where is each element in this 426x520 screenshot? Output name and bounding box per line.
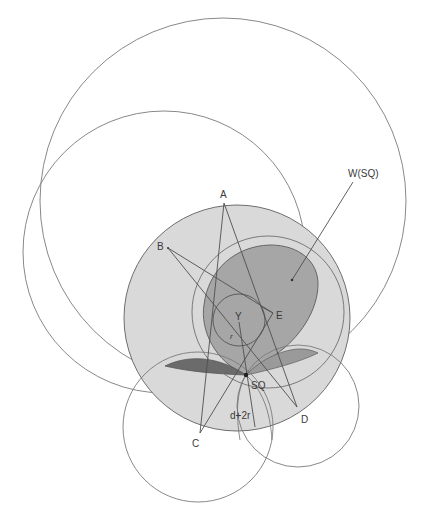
label-e: E [276, 310, 283, 321]
label-y: Y [235, 311, 242, 322]
label-c: C [192, 438, 199, 449]
label-d2r: d+2r [230, 410, 251, 421]
sq-point [244, 373, 248, 377]
label-a: A [220, 189, 227, 200]
geometry-figure: A B C D E Y r SQ d+2r W(SQ) [0, 0, 426, 520]
diagram-canvas: A B C D E Y r SQ d+2r W(SQ) [0, 0, 426, 520]
b-point [167, 247, 169, 249]
label-r: r [230, 332, 233, 341]
label-w-sq: W(SQ) [348, 168, 379, 179]
label-sq: SQ [251, 380, 266, 391]
label-d: D [301, 414, 308, 425]
w-sq-pointer-dot [291, 279, 294, 282]
label-b: B [157, 241, 164, 252]
